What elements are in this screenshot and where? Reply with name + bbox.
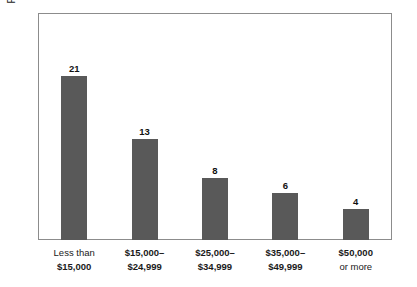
bar-value-label: 4 [353,196,358,207]
x-axis-labels: Less than $15,000 $15,000– $24,999 $25,0… [39,246,391,280]
x-axis-tick-label-line: $35,000– [250,246,320,260]
x-axis-tick-label-line: $34,999 [180,260,250,274]
x-axis-tick-label-line: $15,000– [110,246,180,260]
bar-rect [132,139,158,240]
bar-group: 13 [110,14,180,240]
bar-group: 8 [180,14,250,240]
bar-group: 4 [321,14,391,240]
y-axis-title: Percent of Adults Age 18 or Older [0,0,22,39]
bar-value-label: 13 [139,126,150,137]
x-axis-tick-label: Less than $15,000 [39,246,109,280]
x-axis-tick-label-line: $49,999 [250,260,320,274]
x-axis-tick-label-line: or more [321,260,391,274]
bar-group: 21 [39,14,109,240]
bar-chart-figure: Percent of Adults Age 18 or Older 21 13 … [0,0,417,287]
x-axis-tick-label-line: $50,000 [321,246,391,260]
x-axis-tick-label-line: $15,000 [39,260,109,274]
x-axis-tick-label: $15,000– $24,999 [110,246,180,280]
bars-layer: 21 13 8 6 4 [39,14,391,240]
bar-group: 6 [250,14,320,240]
x-axis-tick-label: $25,000– $34,999 [180,246,250,280]
bar-value-label: 6 [283,180,288,191]
x-axis-tick-label: $50,000 or more [321,246,391,280]
bar-value-label: 8 [212,165,217,176]
x-axis-tick-label-line: Less than [39,246,109,260]
bar-value-label: 21 [69,63,80,74]
bar-rect [61,76,87,240]
bar-rect [202,178,228,240]
x-axis-tick-label-line: $25,000– [180,246,250,260]
bar-rect [272,193,298,240]
bar-rect [343,209,369,240]
x-axis-tick-label: $35,000– $49,999 [250,246,320,280]
x-axis-tick-label-line: $24,999 [110,260,180,274]
